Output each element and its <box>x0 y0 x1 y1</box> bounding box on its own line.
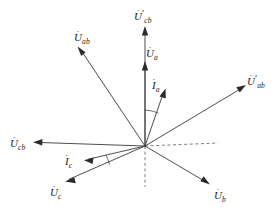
label-u-cb-subscript: cb <box>18 143 25 152</box>
label-u-cb-prime-subscript: cb <box>144 16 151 25</box>
angle-arc-ic-to-uc <box>106 155 109 165</box>
u-b-vector-line <box>145 146 206 182</box>
label-u-c-subscript: c <box>58 192 62 201</box>
u-c-vector-line <box>69 146 146 180</box>
reference-lines-group <box>145 143 218 187</box>
u-ab-vector-line <box>81 50 146 147</box>
u-ab-prime-vector-line <box>145 88 242 146</box>
label-u-b-subscript: b <box>222 195 226 204</box>
label-i-c-subscript: c <box>69 161 73 170</box>
u-ab-prime-arrow-head <box>236 85 246 93</box>
phasor-dot-icon: · <box>136 6 139 15</box>
angle-arcs-group <box>106 110 158 165</box>
i-c-vector-line <box>88 146 145 159</box>
label-u-cb: ·Ucb <box>10 134 25 150</box>
label-i-a-subscript: a <box>156 85 160 94</box>
label-u-b: ·Ub <box>214 186 226 202</box>
phasor-dot-icon: · <box>76 27 79 36</box>
u-a-arrow-head <box>142 61 148 71</box>
label-u-ab-prime: ·U′ab <box>247 72 265 88</box>
u-cb-arrow-head <box>33 139 43 146</box>
phasor-dot-icon: · <box>249 71 252 80</box>
label-u-cb-prime: ·U′cb <box>134 7 152 23</box>
u-ab-arrow-head <box>78 47 86 56</box>
u-c-arrow-head <box>65 177 76 183</box>
phasor-dot-icon: · <box>148 43 151 52</box>
phasor-dot-icon: · <box>216 185 219 194</box>
label-u-ab-subscript: ab <box>82 37 90 46</box>
u-b-arrow-head <box>200 176 210 184</box>
label-i-a: ·Ia <box>152 76 160 92</box>
u-cb-vector-line <box>37 142 145 146</box>
u-cb-prime-arrow-head <box>142 26 148 36</box>
label-u-a: ·Ua <box>146 44 158 60</box>
phasor-dot-icon: · <box>52 182 55 191</box>
i-a-arrow-head <box>160 89 166 99</box>
label-u-c: ·Uc <box>50 183 61 199</box>
label-u-ab: ·Uab <box>74 28 90 44</box>
phasor-svg-canvas <box>0 0 278 210</box>
phasor-dot-icon: · <box>152 75 155 84</box>
label-i-c: ·Ic <box>65 152 72 168</box>
i-c-arrow-head <box>84 158 94 164</box>
i-a-vector-line <box>145 93 164 147</box>
horizontal-reference-dashed <box>145 143 218 146</box>
label-u-ab-prime-subscript: ab <box>257 81 265 90</box>
phasor-diagram: ·U′cb ·Uab ·Ua ·Ia ·U′ab ·Ucb ·Ic ·Uc ·U… <box>0 0 278 210</box>
phasor-dot-icon: · <box>65 151 68 160</box>
phasor-dot-icon: · <box>12 133 15 142</box>
label-u-a-subscript: a <box>154 53 158 62</box>
